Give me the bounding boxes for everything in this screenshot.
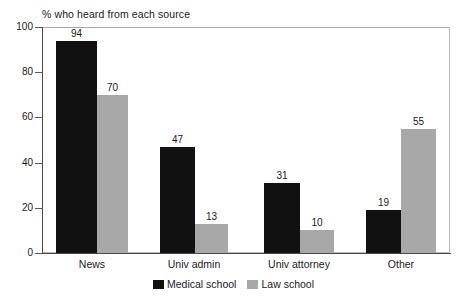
bar-univ-admin-law-school [195,224,228,253]
law-swatch-icon [247,280,258,289]
bar-value-label: 19 [364,197,404,208]
y-tick-40 [35,163,42,164]
bar-other-medical-school [366,210,401,253]
bars-layer: 9470471331101955 [42,27,450,253]
y-tick-60 [35,117,42,118]
bar-value-label: 70 [93,82,133,93]
bar-value-label: 55 [399,116,439,127]
bar-value-label: 10 [297,217,337,228]
y-tick-label-wrap-20: 20 [0,203,33,213]
chart-legend: Medical schoolLaw school [0,278,467,290]
y-tick-label-80: 80 [3,67,33,77]
medical-swatch-icon [153,280,164,289]
bar-other-law-school [401,129,436,253]
y-tick-label-60: 60 [3,112,33,122]
legend-item-law-school[interactable]: Law school [247,278,314,290]
legend-label: Law school [261,278,314,290]
y-tick-label-100: 100 [3,22,33,32]
bar-value-label: 13 [192,211,232,222]
bar-univ-admin-medical-school [160,147,195,253]
y-tick-80 [35,72,42,73]
bar-value-label: 31 [262,170,302,181]
bar-news-medical-school [56,41,97,253]
x-axis-label-other: Other [341,258,461,271]
bar-value-label: 47 [158,134,198,145]
bar-univ-attorney-medical-school [264,183,300,253]
y-tick-label-40: 40 [3,158,33,168]
y-tick-label-20: 20 [3,203,33,213]
y-tick-label-wrap-80: 80 [0,67,33,77]
bar-value-label: 94 [57,28,97,39]
y-tick-100 [35,27,42,28]
x-axis-line [42,253,451,254]
legend-item-medical-school[interactable]: Medical school [153,278,236,290]
y-tick-label-wrap-100: 100 [0,22,33,32]
y-tick-0 [35,253,42,254]
y-tick-20 [35,208,42,209]
y-tick-label-wrap-40: 40 [0,158,33,168]
chart-title: % who heard from each source [42,8,190,21]
y-tick-label-0: 0 [3,248,33,258]
x-axis-label-univ-admin: Univ admin [134,258,254,271]
y-tick-label-wrap-60: 60 [0,112,33,122]
bar-news-law-school [97,95,128,253]
bar-chart: % who heard from each source 10080604020… [0,0,467,304]
y-tick-label-wrap-0: 0 [0,248,33,258]
bar-univ-attorney-law-school [300,230,334,253]
legend-label: Medical school [167,278,236,290]
